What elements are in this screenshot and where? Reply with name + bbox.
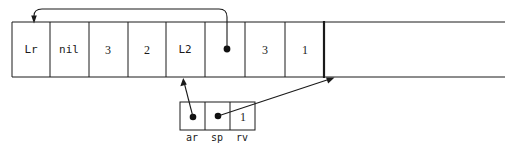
- stack-activation-record-diagram: Lr nil 3 2 L2 3 1 1 ar: [0, 0, 506, 155]
- stack-cell-3b: 3: [262, 43, 268, 57]
- stack-cell-1: 1: [302, 43, 308, 57]
- stack-frame-row: Lr nil 3 2 L2 3 1: [12, 21, 505, 78]
- stack-cell-2: 2: [144, 43, 150, 57]
- record-field-label-rv: rv: [236, 132, 248, 143]
- arrow-ar-to-l2: [180, 78, 193, 117]
- stack-cell-3a: 3: [105, 43, 111, 57]
- record-field-label-ar: ar: [186, 132, 198, 143]
- record-rv-value: 1: [240, 110, 246, 124]
- arrow-sp-to-stacktop-path: [218, 79, 330, 116]
- arrow-sp-to-stacktop-head: [326, 77, 335, 83]
- diagram-canvas: Lr nil 3 2 L2 3 1 1 ar: [0, 0, 506, 155]
- stack-cell-lr: Lr: [24, 43, 38, 56]
- arrow-ar-to-l2-head: [180, 78, 187, 86]
- arrow-ar-to-l2-path: [184, 82, 193, 117]
- arrow-sp-to-stacktop: [218, 77, 335, 116]
- stack-cell-nil: nil: [59, 43, 79, 56]
- stack-cell-l2: L2: [178, 43, 191, 56]
- record-field-label-sp: sp: [211, 132, 223, 143]
